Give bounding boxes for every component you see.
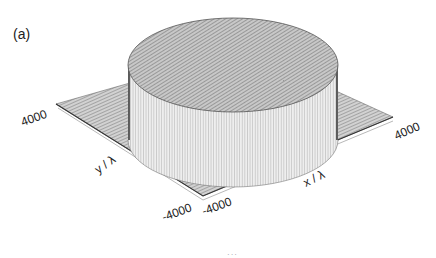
footer-mark: ···	[227, 250, 238, 258]
panel-label: (a)	[13, 26, 30, 42]
disk-plateau	[128, 18, 338, 112]
surface-plot	[0, 0, 436, 258]
